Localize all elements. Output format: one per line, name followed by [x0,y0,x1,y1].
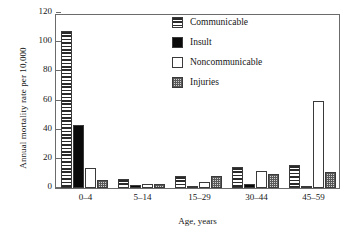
bar [325,172,336,188]
bar [61,31,72,188]
bar [142,184,153,188]
bar [256,171,267,189]
x-axis-tick-label: 15–29 [188,192,211,202]
bar [85,168,96,188]
bar [73,125,84,188]
x-axis-tick-label: 45–59 [302,192,325,202]
y-axis-tick-label: 100 [39,35,53,45]
x-axis-tick-label: 0–4 [79,192,93,202]
y-axis-tick: 120 [56,12,61,13]
bar [268,174,279,188]
legend-label: Communicable [190,17,248,27]
bar [187,186,198,188]
mortality-bar-chart: Annual mortality rate per 10,000 0204060… [0,0,354,238]
legend-label: Insult [190,37,212,47]
bar [211,176,222,188]
legend-item: Communicable [172,12,322,32]
bar [97,180,108,188]
legend-swatch-icon [172,77,183,88]
x-axis-title: Age, years [55,216,340,226]
x-axis-tick-label: 30–44 [245,192,268,202]
legend-label: Injuries [190,77,219,87]
x-axis-tick-label: 5–14 [134,192,152,202]
bar [289,165,300,188]
bar [244,184,255,188]
legend-item: Insult [172,32,322,52]
y-axis-tick-label: 0 [48,181,53,191]
bar [154,184,165,188]
bar [232,167,243,188]
legend-label: Noncommunicable [190,57,262,67]
y-axis-title: Annual mortality rate per 10,000 [18,23,28,193]
legend-swatch-icon [172,37,183,48]
bar [199,182,210,188]
legend-item: Injuries [172,72,322,92]
legend-swatch-icon [172,57,183,68]
legend-swatch-icon [172,17,183,28]
chart-legend: CommunicableInsultNoncommunicableInjurie… [172,12,322,92]
legend-item: Noncommunicable [172,52,322,72]
y-axis-tick-label: 40 [43,123,52,133]
bar [301,186,312,188]
y-axis-tick-label: 20 [43,152,52,162]
y-axis-tick-label: 60 [43,94,52,104]
y-axis-tick-label: 120 [39,6,53,16]
bar [130,185,141,188]
y-axis-tick-label: 80 [43,64,52,74]
bar [118,179,129,188]
bar [313,101,324,189]
bar [175,176,186,188]
